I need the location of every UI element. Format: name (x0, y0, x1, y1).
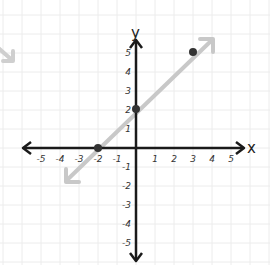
y-tick-label: 2 (125, 105, 131, 115)
x-tick-label: 4 (209, 154, 215, 164)
y-tick-label: -1 (122, 162, 131, 172)
x-tick-label: 1 (152, 154, 158, 164)
y-tick-label: 5 (125, 48, 131, 58)
x-tick-label: -5 (37, 154, 46, 164)
y-tick-label: 1 (125, 124, 131, 134)
partial-arrow-decoration (0, 46, 13, 61)
y-tick-label: -4 (122, 219, 131, 229)
point-0-2 (132, 105, 140, 113)
x-axis-label: x (247, 139, 256, 157)
point-3-5 (189, 48, 197, 56)
x-tick-label: 3 (190, 154, 196, 164)
x-tick-label: -3 (75, 154, 84, 164)
x-tick-label: 2 (171, 154, 177, 164)
x-tick-label: 5 (228, 154, 234, 164)
x-tick-label: -1 (113, 154, 122, 164)
y-axis-label: y (131, 24, 140, 42)
y-tick-label: 3 (125, 86, 131, 96)
y-tick-label: 4 (125, 67, 131, 77)
coordinate-plane: x y -5-4-3-2-112345 54321-1-2-3-4-5 (0, 0, 270, 265)
y-tick-label: -5 (122, 238, 131, 248)
y-tick-label: -2 (122, 181, 131, 191)
x-tick-label: -2 (94, 154, 103, 164)
axes (23, 40, 244, 261)
y-tick-label: -3 (122, 200, 131, 210)
x-tick-label: -4 (56, 154, 65, 164)
point-neg2-0 (94, 144, 102, 152)
